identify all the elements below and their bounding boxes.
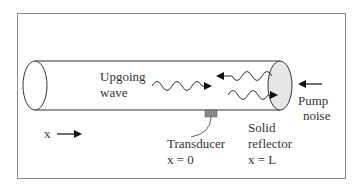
pipe-left-opening — [23, 61, 47, 110]
upgoing-wave-icon — [152, 82, 210, 91]
upgoing-label-2: wave — [100, 85, 128, 100]
reflector-label-2: reflector — [248, 136, 293, 151]
x-axis-label: x — [44, 126, 51, 141]
solid-reflector — [268, 61, 292, 110]
pipe — [23, 61, 292, 110]
pump-label-2: noise — [303, 108, 331, 123]
pipe-diagram: Upgoing wave Pump noise Solid reflector … — [0, 0, 362, 189]
upgoing-label-1: Upgoing — [100, 69, 146, 84]
reflector-label-3: x = L — [248, 152, 276, 167]
reflected-wave-icon — [218, 72, 272, 81]
pump-label-1: Pump — [298, 93, 328, 108]
transducer-leader-line — [191, 117, 211, 137]
transducer — [205, 110, 217, 117]
transducer-label-2: x = 0 — [167, 152, 194, 167]
reflector-label-1: Solid — [248, 120, 276, 135]
transducer-label-1: Transducer — [167, 136, 226, 151]
